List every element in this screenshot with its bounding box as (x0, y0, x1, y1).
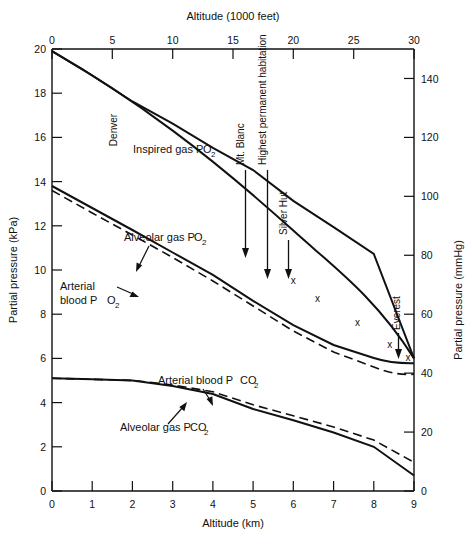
top-tick-label: 20 (287, 34, 299, 46)
left-axis-ticks (52, 49, 62, 491)
bottom-tick-label: 6 (290, 498, 296, 510)
right-tick-label: 40 (421, 367, 433, 379)
label-alveolar-gas-pco2-sub2: 2 (204, 428, 209, 437)
top-tick-label: 30 (408, 34, 420, 46)
left-tick-label: 8 (40, 308, 46, 320)
label-alveolar-gas-po2-sub2: 2 (202, 238, 207, 247)
top-tick-label: 10 (167, 34, 179, 46)
annotation-everest-arrow (395, 333, 402, 359)
label-arterial-blood-po2-line1: Arterial (60, 280, 95, 292)
right-axis-ticks (404, 78, 414, 491)
bottom-axis-tick-labels: 0 1 2 3 4 5 6 7 8 9 (49, 498, 417, 510)
label-alveolar-gas-pco2: Alveolar gas P CO 2 (120, 421, 209, 437)
curve-arterial-blood-pco2 (52, 378, 414, 462)
right-tick-label: 120 (421, 131, 439, 143)
right-axis-title: Partial pressure (mmHg) (452, 240, 464, 360)
top-tick-label: 5 (109, 34, 115, 46)
label-alveolar-gas-po2: Alveolar gas P O 2 (124, 231, 207, 247)
curve-arterial-blood-po2 (52, 191, 414, 375)
left-axis-tick-labels: 0 2 4 6 8 10 12 14 16 18 20 (34, 43, 46, 497)
marker-x: x (387, 339, 392, 350)
annotation-highest-habitation: Highest permanent habitation (257, 34, 268, 165)
left-tick-label: 2 (40, 441, 46, 453)
marker-x: x (405, 352, 410, 363)
annotation-mt-blanc: Mt. Blanc (235, 123, 246, 165)
annotation-silver-hut-arrow (285, 240, 292, 279)
left-tick-label: 4 (40, 397, 46, 409)
annotation-everest: Everest (391, 296, 402, 330)
annotation-highest-habitation-arrow (264, 170, 271, 279)
label-inspired-gas-po2-text: Inspired gas P (133, 143, 203, 155)
left-tick-label: 16 (34, 131, 46, 143)
bottom-tick-label: 7 (331, 498, 337, 510)
top-tick-label: 0 (49, 34, 55, 46)
right-tick-label: 20 (421, 426, 433, 438)
label-arterial-blood-pco2: Arterial blood P CO 2 (158, 374, 259, 390)
right-tick-label: 100 (421, 190, 439, 202)
bottom-tick-label: 9 (411, 498, 417, 510)
bottom-tick-label: 4 (210, 498, 216, 510)
chart-figure: 0 5 10 15 20 25 30 Altitude (1000 feet) … (0, 0, 472, 547)
left-tick-label: 6 (40, 352, 46, 364)
bottom-axis-title: Altitude (km) (202, 517, 264, 529)
right-tick-label: 0 (421, 485, 427, 497)
bottom-tick-label: 3 (170, 498, 176, 510)
label-alveolar-gas-pco2-text: Alveolar gas P (120, 421, 191, 433)
label-arterial-blood-po2: Arterial blood P O 2 (60, 280, 120, 310)
left-tick-label: 10 (34, 264, 46, 276)
bottom-tick-label: 5 (250, 498, 256, 510)
label-arterial-blood-po2-sub2: 2 (115, 301, 120, 310)
label-arterial-blood-po2-line2: blood P (60, 294, 97, 306)
top-tick-label: 15 (227, 34, 239, 46)
bottom-axis-ticks (52, 481, 414, 491)
top-tick-label: 25 (348, 34, 360, 46)
top-axis-tick-labels: 0 5 10 15 20 25 30 (49, 34, 420, 46)
right-tick-label: 80 (421, 249, 433, 261)
right-tick-label: 140 (421, 73, 439, 85)
right-tick-label: 60 (421, 308, 433, 320)
annotation-denver: Denver (108, 113, 119, 146)
label-arterial-blood-pco2-sub2: 2 (254, 381, 259, 390)
bottom-tick-label: 8 (371, 498, 377, 510)
left-tick-label: 14 (34, 176, 46, 188)
top-axis-ticks (52, 49, 414, 59)
right-axis-tick-labels: 0 20 40 60 80 100 120 140 (421, 73, 439, 498)
curve-inspired-gas-po2 (52, 51, 414, 358)
top-axis-title: Altitude (1000 feet) (187, 10, 280, 22)
curve-alveolar-gas-po2 (52, 186, 414, 363)
marker-x: x (291, 275, 296, 286)
marker-x: x (355, 317, 360, 328)
chart-svg: 0 5 10 15 20 25 30 Altitude (1000 feet) … (0, 0, 472, 547)
left-tick-label: 0 (40, 485, 46, 497)
marker-x: x (315, 293, 320, 304)
left-tick-label: 20 (34, 43, 46, 55)
leader-alveolar-gas-po2 (136, 246, 149, 272)
label-alveolar-gas-po2-text: Alveolar gas P (124, 231, 195, 243)
bottom-tick-label: 1 (89, 498, 95, 510)
bottom-tick-label: 2 (129, 498, 135, 510)
left-tick-label: 18 (34, 87, 46, 99)
label-arterial-blood-pco2-text: Arterial blood P (158, 374, 233, 386)
left-tick-label: 12 (34, 220, 46, 232)
annotation-silver-hut: Silver Hut (278, 191, 289, 235)
label-inspired-gas-po2: Inspired gas P O 2 (133, 143, 216, 159)
leader-arterial-blood-po2 (117, 287, 139, 297)
curve-alveolar-gas-pco2 (52, 378, 414, 475)
curve-inspired-gas-po2-smooth (52, 51, 414, 358)
annotation-mt-blanc-arrow (242, 170, 249, 258)
bottom-tick-label: 0 (49, 498, 55, 510)
plot-frame (52, 49, 414, 491)
label-inspired-gas-po2-sub2: 2 (211, 150, 216, 159)
left-axis-title: Partial pressure (kPa) (7, 217, 19, 323)
